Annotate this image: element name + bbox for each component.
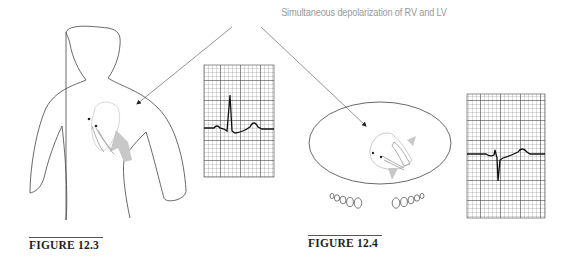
heart-leads-frontal — [88, 102, 132, 162]
arrow-to-figure-12-4 — [261, 27, 366, 126]
vertebrae-right — [392, 193, 424, 208]
transverse-chest — [309, 102, 451, 184]
diagram-canvas: Simultaneous depolarization of RV and LV — [0, 0, 578, 264]
figure-12-3-label: FIGURE 12.3 — [29, 239, 99, 251]
diagram-svg — [0, 0, 578, 264]
figure-12-3-rule — [29, 237, 103, 238]
torso-silhouette — [30, 26, 186, 220]
vertebrae-left — [330, 193, 362, 208]
ecg-strip-figure-12-4 — [467, 94, 545, 218]
ecg-strip-figure-12-3 — [204, 65, 274, 177]
figure-12-4-rule — [308, 235, 382, 236]
figure-12-4-label: FIGURE 12.4 — [308, 237, 378, 249]
